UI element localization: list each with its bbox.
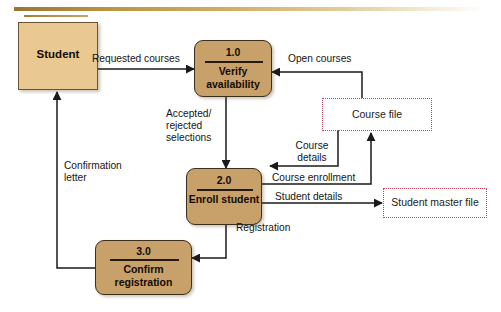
data-store-course-file[interactable]: Course file <box>322 98 432 131</box>
process-3-name: Confirm registration <box>96 263 191 288</box>
entity-student-label: Student <box>19 48 97 60</box>
process-2-number: 2.0 <box>187 174 261 186</box>
process-3-divider <box>110 259 179 261</box>
process-2-enroll-student[interactable]: 2.0 Enroll student <box>186 168 262 225</box>
process-1-verify-availability[interactable]: 1.0 Verify availability <box>194 40 272 97</box>
flow-line-confirmation-letter <box>57 92 95 268</box>
process-3-number: 3.0 <box>96 245 191 257</box>
process-3-confirm-registration[interactable]: 3.0 Confirm registration <box>95 240 192 295</box>
dfd-canvas: Student 1.0 Verify availability 2.0 Enro… <box>0 0 501 312</box>
flow-line-course-enrollment <box>262 133 371 184</box>
process-1-number: 1.0 <box>195 46 271 58</box>
data-store-student-master-file[interactable]: Student master file <box>383 188 487 218</box>
process-1-divider <box>205 61 263 63</box>
data-store-course-file-label: Course file <box>323 108 431 120</box>
data-store-student-master-file-label: Student master file <box>384 196 486 208</box>
process-2-divider <box>197 189 253 191</box>
flow-line-open-courses <box>272 72 362 98</box>
process-2-name: Enroll student <box>187 193 261 206</box>
flow-line-course-details <box>270 130 338 166</box>
entity-student[interactable]: Student <box>18 22 98 90</box>
process-1-name: Verify availability <box>195 65 271 90</box>
